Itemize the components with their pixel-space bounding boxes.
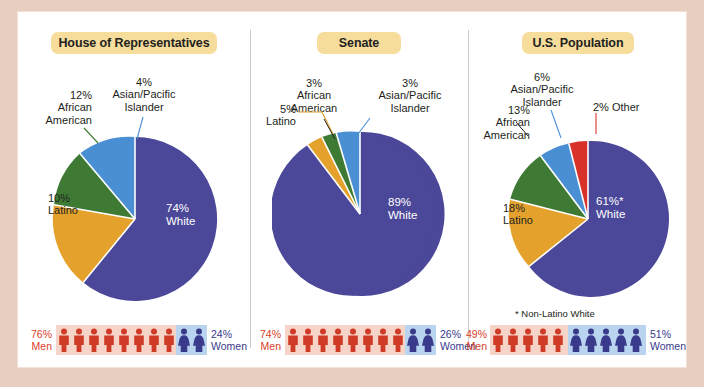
panel-house-of-representatives: House of Representatives	[18, 12, 250, 367]
gender-label-men-population: 49% Men	[456, 329, 487, 352]
gender-row-senate: 74% Men 26% Women	[250, 325, 468, 355]
men-word-senate: Men	[261, 340, 281, 352]
panel-senate: Senate	[250, 12, 468, 367]
leader-lines-senate	[250, 12, 468, 367]
gender-band-women-population	[568, 325, 646, 355]
men-figures-senate	[285, 326, 405, 354]
men-pct-senate: 74%	[260, 328, 281, 340]
women-figures-population	[568, 326, 646, 354]
women-word-population: Women	[650, 340, 686, 352]
panel-us-population: U.S. Population 61%* White	[468, 12, 686, 367]
women-word-house: Women	[211, 340, 247, 352]
women-figures-senate	[405, 326, 436, 354]
gender-row-population: 49% Men 51% Women	[468, 325, 686, 355]
women-pct-population: 51%	[650, 328, 671, 340]
infographic-frame: House of Representatives	[18, 12, 686, 367]
men-figures-house	[56, 326, 176, 354]
men-pct-population: 49%	[466, 328, 487, 340]
gender-label-women-house: 24% Women	[211, 329, 251, 352]
gender-label-men-house: 76% Men	[18, 329, 52, 352]
gender-label-men-senate: 74% Men	[250, 329, 281, 352]
men-word-population: Men	[467, 340, 487, 352]
men-pct-house: 76%	[31, 328, 52, 340]
gender-band-men-population	[490, 325, 568, 355]
gender-band-women-senate	[405, 325, 436, 355]
gender-label-women-population: 51% Women	[650, 329, 690, 352]
men-word-house: Men	[32, 340, 52, 352]
men-figures-population	[490, 326, 568, 354]
gender-band-men-house	[56, 325, 176, 355]
women-pct-house: 24%	[211, 328, 232, 340]
gender-row-house: 76% Men 24% Women	[18, 325, 250, 355]
leader-lines-house	[18, 12, 250, 367]
gender-band-men-senate	[285, 325, 405, 355]
women-figures-house	[176, 326, 207, 354]
gender-band-women-house	[176, 325, 207, 355]
footnote-population: * Non-Latino White	[515, 308, 595, 319]
